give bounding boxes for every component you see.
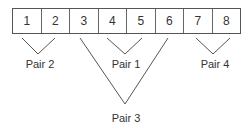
pair-3-label: Pair 3 <box>112 112 141 124</box>
pair-4-connector <box>196 38 230 54</box>
pair-1-label: Pair 1 <box>112 58 141 70</box>
pair-4-label: Pair 4 <box>201 58 230 70</box>
pair-1-connector <box>107 38 142 54</box>
pair-3-connector <box>80 38 168 104</box>
pair-2-label: Pair 2 <box>26 58 55 70</box>
pair-2-connector <box>22 38 55 54</box>
